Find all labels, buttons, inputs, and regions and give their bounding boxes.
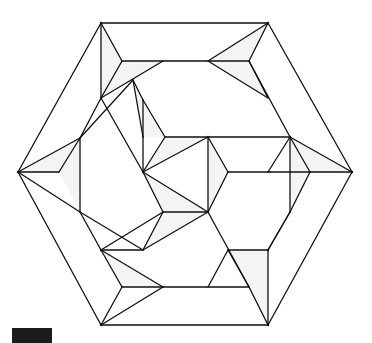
edge-line <box>101 98 143 172</box>
vertex-dot <box>267 22 269 24</box>
vertex-dot <box>100 324 102 326</box>
vertex-dot <box>100 249 102 251</box>
edge-line <box>101 287 163 325</box>
vertex-dot <box>207 211 209 213</box>
vertex-dot <box>267 249 269 251</box>
edge-line <box>268 212 290 250</box>
corner-mark <box>12 328 52 343</box>
vertex-dot <box>17 171 19 173</box>
vertex-dot <box>289 136 291 138</box>
edge-line <box>268 137 290 172</box>
vertex-dot <box>142 171 144 173</box>
vertex-dot <box>267 324 269 326</box>
edge-line <box>18 172 101 325</box>
edge-line <box>268 172 352 325</box>
edge-line <box>249 61 290 137</box>
vertex-dot <box>207 136 209 138</box>
vertex-dot <box>351 171 353 173</box>
hexagon-diagram <box>0 0 372 343</box>
edge-line <box>208 250 228 287</box>
vertex-dot <box>100 22 102 24</box>
shaded-facets <box>18 23 352 325</box>
shaded-facet <box>208 137 228 212</box>
vertex-dot <box>100 97 102 99</box>
